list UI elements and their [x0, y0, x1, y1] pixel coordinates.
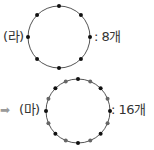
count-text-8: : 8개	[94, 29, 121, 45]
point-dot	[35, 57, 39, 61]
point-dot	[88, 79, 92, 83]
circle-8-points	[26, 4, 92, 70]
point-dot	[44, 109, 48, 113]
point-dot	[79, 13, 83, 17]
figure-label-ma: (마)	[19, 102, 40, 118]
circle-16-points	[44, 77, 112, 145]
count-text-16: : 16개	[111, 102, 146, 118]
point-dot	[76, 77, 80, 81]
point-dot	[88, 35, 92, 39]
point-dot	[79, 57, 83, 61]
point-dot	[88, 139, 92, 143]
point-dot	[57, 4, 61, 8]
point-dot	[57, 66, 61, 70]
point-dot	[35, 13, 39, 17]
diagram-canvas	[0, 0, 154, 150]
point-dot	[99, 86, 103, 90]
point-dot	[26, 35, 30, 39]
point-dot	[46, 121, 50, 125]
point-dot	[53, 86, 57, 90]
point-dot	[46, 97, 50, 101]
point-dot	[106, 97, 110, 101]
figure-label-ra: (라)	[3, 29, 24, 45]
point-dot	[64, 139, 68, 143]
point-dot	[99, 132, 103, 136]
point-dot	[64, 79, 68, 83]
right-arrow-icon: ➡	[0, 102, 10, 118]
point-dot	[106, 121, 110, 125]
point-dot	[53, 132, 57, 136]
point-dot	[76, 141, 80, 145]
